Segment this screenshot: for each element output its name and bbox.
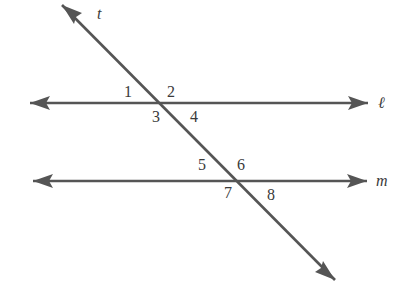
line-t [62, 5, 335, 280]
label-t: t [97, 5, 102, 22]
angle-3-label: 3 [152, 108, 160, 125]
angle-7-label: 7 [224, 184, 232, 201]
angle-1-label: 1 [124, 83, 132, 100]
angle-6-label: 6 [237, 156, 245, 173]
label-l: ℓ [378, 94, 385, 111]
parallel-lines-diagram: t ℓ m 1 2 3 4 5 6 7 8 [0, 0, 401, 290]
angle-5-label: 5 [198, 156, 206, 173]
label-m: m [376, 172, 388, 189]
angle-2-label: 2 [167, 83, 175, 100]
angle-8-label: 8 [267, 186, 275, 203]
angle-4-label: 4 [190, 108, 198, 125]
